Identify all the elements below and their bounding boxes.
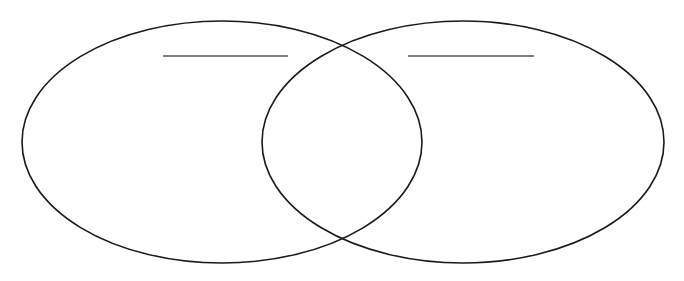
- venn-diagram-canvas: [0, 0, 684, 281]
- right-set-ellipse: [262, 21, 664, 263]
- left-set-ellipse: [22, 21, 422, 263]
- venn-diagram: [0, 0, 684, 281]
